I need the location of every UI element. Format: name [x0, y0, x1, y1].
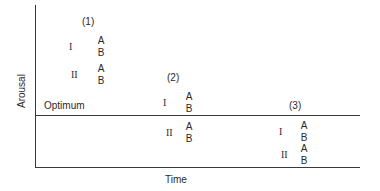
group-item-a: A	[184, 91, 194, 102]
group-item-a: A	[299, 120, 309, 131]
group-roman-numeral: I	[69, 42, 72, 52]
group-item-b: B	[96, 47, 106, 58]
group-item-b: B	[96, 75, 106, 86]
y-axis	[35, 5, 36, 168]
phase-label: (3)	[289, 101, 301, 111]
optimum-label: Optimum	[44, 101, 85, 111]
group-roman-numeral: I	[279, 127, 282, 137]
group-item-b: B	[184, 133, 194, 144]
group-item-a: A	[299, 143, 309, 154]
group-roman-numeral: II	[71, 70, 78, 80]
group-roman-numeral: II	[166, 128, 173, 138]
x-axis	[35, 167, 360, 168]
group-roman-numeral: I	[163, 98, 166, 108]
group-item-b: B	[184, 103, 194, 114]
optimum-line	[35, 115, 360, 116]
phase-label: (1)	[82, 17, 94, 27]
group-item-b: B	[299, 155, 309, 166]
group-item-a: A	[184, 121, 194, 132]
group-roman-numeral: II	[281, 150, 288, 160]
group-item-a: A	[96, 63, 106, 74]
group-item-b: B	[299, 132, 309, 143]
group-item-a: A	[96, 35, 106, 46]
x-axis-label: Time	[165, 175, 187, 185]
phase-label: (2)	[167, 73, 179, 83]
y-axis-label: Arousal	[16, 74, 27, 108]
